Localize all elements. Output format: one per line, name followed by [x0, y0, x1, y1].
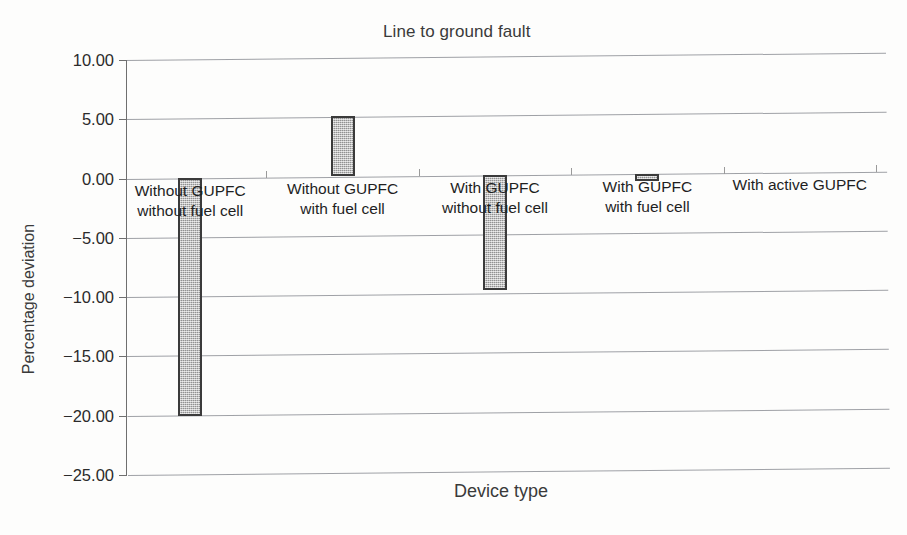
gridline — [127, 349, 889, 357]
y-axis-tick-label: −20.00 — [63, 406, 114, 425]
x-axis-tick — [266, 171, 267, 178]
y-axis-tick-label: −15.00 — [63, 347, 114, 366]
x-axis-title: Device type — [454, 481, 548, 502]
category-label-line1: Without GUPFC — [135, 182, 246, 199]
gridline — [127, 408, 889, 416]
x-axis-tick — [571, 168, 572, 175]
y-axis-tick — [119, 416, 127, 417]
y-axis-tick — [119, 356, 127, 357]
category-label-line1: With GUPFC — [450, 179, 540, 196]
category-label-line2: with fuel cell — [287, 199, 398, 219]
x-axis-tick — [876, 165, 877, 172]
category-label-line1: With GUPFC — [603, 178, 693, 195]
category-label: With GUPFCwithout fuel cell — [442, 178, 548, 218]
category-label: With GUPFCwith fuel cell — [603, 177, 693, 217]
y-axis-tick-label: 5.00 — [82, 110, 114, 129]
y-axis-tick-label: −10.00 — [63, 288, 114, 307]
bar — [331, 116, 355, 176]
chart-figure: Line to ground fault Percentage deviatio… — [0, 0, 907, 535]
x-axis-tick — [419, 169, 420, 176]
y-axis-title: Percentage deviation — [20, 184, 38, 414]
y-axis-tick — [119, 238, 127, 239]
category-label-line2: without fuel cell — [442, 198, 548, 218]
y-axis-tick-label: −5.00 — [72, 228, 114, 247]
category-label: Without GUPFCwithout fuel cell — [135, 181, 246, 221]
y-axis-tick — [119, 475, 127, 476]
category-label-line1: Without GUPFC — [287, 180, 398, 197]
y-axis-tick — [119, 179, 127, 180]
category-label: Without GUPFCwith fuel cell — [287, 179, 398, 219]
category-label-line1: With active GUPFC — [733, 176, 867, 193]
y-axis-tick — [119, 119, 127, 120]
y-axis-tick-label: 10.00 — [73, 51, 114, 70]
gridline — [128, 468, 890, 476]
category-label: With active GUPFC — [733, 175, 867, 195]
x-axis-tick — [724, 167, 725, 174]
y-axis-spine — [126, 60, 127, 475]
gridline — [124, 53, 886, 61]
category-label-line2: with fuel cell — [603, 197, 693, 217]
gridline — [126, 290, 888, 298]
y-axis-tick-label: 0.00 — [82, 169, 114, 188]
category-label-line2: without fuel cell — [135, 201, 246, 221]
y-axis-tick — [119, 60, 127, 61]
y-axis-tick-label: −25.00 — [63, 466, 114, 485]
chart-title: Line to ground fault — [383, 22, 531, 42]
plot-area: 10.005.000.00−5.00−10.00−15.00−20.00−25.… — [126, 60, 888, 475]
y-axis-tick — [119, 297, 127, 298]
gridline — [125, 112, 887, 120]
